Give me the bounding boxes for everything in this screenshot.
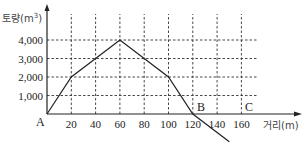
x-tick-label: 100 (160, 118, 177, 130)
x-tick-label: 40 (90, 118, 102, 130)
x-tick-label: 80 (139, 118, 151, 130)
x-axis-label: 거리(m) (263, 120, 299, 131)
y-tick-label: 2,000 (18, 71, 43, 83)
y-tick-labels: 1,0002,0003,0004,000 (18, 34, 43, 102)
x-tick-label: 120 (185, 118, 202, 130)
grid-lines (47, 14, 258, 114)
x-tick-labels: 20406080100120140160 (66, 118, 250, 130)
y-tick-label: 3,000 (18, 53, 43, 65)
y-axis-arrow-icon (45, 4, 50, 11)
y-axis-label: 토량(m3) (2, 12, 42, 24)
x-tick-label: 20 (66, 118, 78, 130)
x-axis-arrow-icon (294, 112, 302, 117)
point-b-label: B (197, 100, 205, 114)
y-tick-label: 4,000 (18, 34, 43, 46)
point-a-label: A (36, 115, 45, 129)
mass-curve-chart: 1,0002,0003,0004,000 2040608010012014016… (0, 0, 305, 147)
point-c-label: C (245, 100, 253, 114)
x-tick-label: 60 (114, 118, 126, 130)
y-tick-label: 1,000 (18, 90, 43, 102)
axes (45, 4, 303, 117)
x-tick-label: 160 (233, 118, 250, 130)
